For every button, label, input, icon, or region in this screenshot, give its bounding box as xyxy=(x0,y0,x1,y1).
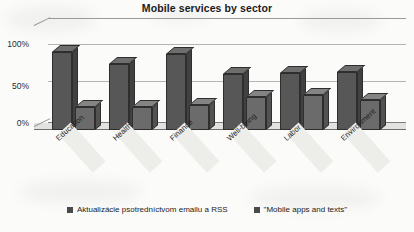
legend-label-1: "Mobile apps and texts" xyxy=(264,205,348,214)
y-tick-100: 100% xyxy=(7,39,29,49)
legend-item-0: Aktualizácie psotredníctvom emailu a RSS xyxy=(67,205,228,214)
bar-group xyxy=(223,34,266,130)
bar-front-face xyxy=(52,52,72,130)
bar-side-face xyxy=(209,100,215,130)
bar-labor-series-0 xyxy=(280,73,300,130)
legend-swatch-icon xyxy=(67,207,73,213)
bar-labor-series-1 xyxy=(303,95,323,130)
bar-group xyxy=(166,34,209,130)
chart-legend: Aktualizácie psotredníctvom emailu a RSS… xyxy=(0,205,414,214)
bar-front-face xyxy=(303,95,323,130)
backwall-left-riser xyxy=(34,17,51,26)
chart-container: Mobile services by sector 100% 50% 0% Ed… xyxy=(0,0,414,232)
legend-label-0: Aktualizácie psotredníctvom emailu a RSS xyxy=(77,205,228,214)
bar-front-face xyxy=(280,73,300,130)
bar-finance-series-0 xyxy=(166,54,186,130)
bar-front-face xyxy=(109,64,129,130)
backwall-top-edge xyxy=(48,18,406,19)
legend-item-1: "Mobile apps and texts" xyxy=(254,205,348,214)
bar-group xyxy=(109,34,152,130)
y-tick-0: 0% xyxy=(17,118,29,128)
bar-side-face xyxy=(323,90,329,130)
bar-group xyxy=(52,34,95,130)
bar-education-series-0 xyxy=(52,52,72,130)
bar-health-series-1 xyxy=(132,107,152,130)
y-tick-50: 50% xyxy=(12,81,29,91)
legend-swatch-icon xyxy=(254,207,260,213)
bar-front-face xyxy=(166,54,186,130)
bar-side-face xyxy=(266,92,272,130)
bar-group xyxy=(280,34,323,130)
plot-area: 100% 50% 0% xyxy=(34,26,406,130)
bar-health-series-0 xyxy=(109,64,129,130)
bar-front-face xyxy=(132,107,152,130)
bar-side-face xyxy=(380,95,386,130)
background-texture xyxy=(20,180,140,204)
chart-title: Mobile services by sector xyxy=(0,2,414,14)
